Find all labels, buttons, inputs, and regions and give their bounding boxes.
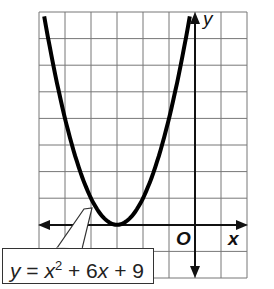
equation-var: x bbox=[44, 259, 55, 282]
equation-tail: + 9 bbox=[108, 259, 144, 282]
y-axis-label: y bbox=[203, 8, 213, 30]
origin-label: O bbox=[176, 228, 191, 250]
label-pointer bbox=[57, 208, 92, 249]
equation-lhs: y bbox=[10, 259, 21, 282]
equation-label: y = x2 + 6x + 9 bbox=[2, 248, 154, 284]
x-axis-label: x bbox=[228, 228, 239, 250]
equation-var2: x bbox=[98, 259, 109, 282]
equation-eq: = bbox=[21, 259, 45, 282]
equation-rest: + 6 bbox=[62, 259, 98, 282]
